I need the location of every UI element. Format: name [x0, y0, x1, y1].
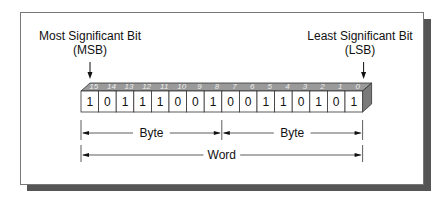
bit-value: 1: [280, 95, 287, 109]
bit-position: 4: [285, 82, 290, 91]
bit-position: 12: [142, 82, 151, 91]
bit-position: 10: [177, 82, 186, 91]
bit-value: 0: [192, 95, 199, 109]
bit-value: 0: [245, 95, 252, 109]
bit-position: 14: [107, 82, 116, 91]
bit-value: 1: [86, 95, 93, 109]
byte-high-span-arrow-left-icon: [82, 131, 89, 135]
msb-arrow-arrowhead-icon: [88, 72, 93, 79]
bit-position: 11: [160, 82, 168, 91]
byte-high-span-arrow-right-icon: [214, 131, 221, 135]
word-span-arrow-left-icon: [82, 153, 89, 157]
bit-position: 2: [319, 82, 325, 91]
bit-value: 0: [333, 95, 340, 109]
bit-position: 6: [250, 82, 255, 91]
bit-position: 5: [268, 82, 273, 91]
word-span-label: Word: [208, 148, 236, 162]
byte-low-span-label: Byte: [280, 126, 304, 140]
bit-position: 8: [215, 82, 220, 91]
bit-position: 9: [197, 82, 202, 91]
bit-value: 0: [104, 95, 111, 109]
bit-position: 13: [125, 82, 134, 91]
bit-value: 1: [315, 95, 322, 109]
byte-high-span-label: Byte: [139, 126, 163, 140]
bit-position: 3: [303, 82, 308, 91]
bit-value: 0: [174, 95, 181, 109]
bit-value: 1: [122, 95, 129, 109]
bit-value: 1: [350, 95, 357, 109]
bit-value: 1: [210, 95, 217, 109]
bit-position: 15: [89, 82, 98, 91]
bit-value: 1: [157, 95, 164, 109]
word-span-arrow-right-icon: [355, 153, 362, 157]
byte-low-span-arrow-right-icon: [355, 131, 362, 135]
bit-register-diagram: 11501411311211101009180706151403120110By…: [0, 0, 444, 201]
bit-position: 7: [232, 82, 237, 91]
lsb-arrow-arrowhead-icon: [361, 72, 366, 79]
bit-position: 0: [356, 82, 361, 91]
byte-low-span-arrow-left-icon: [223, 131, 230, 135]
bit-value: 1: [139, 95, 146, 109]
bit-value: 0: [298, 95, 305, 109]
bit-value: 1: [262, 95, 269, 109]
bit-value: 0: [227, 95, 234, 109]
bit-position: 1: [338, 82, 342, 91]
